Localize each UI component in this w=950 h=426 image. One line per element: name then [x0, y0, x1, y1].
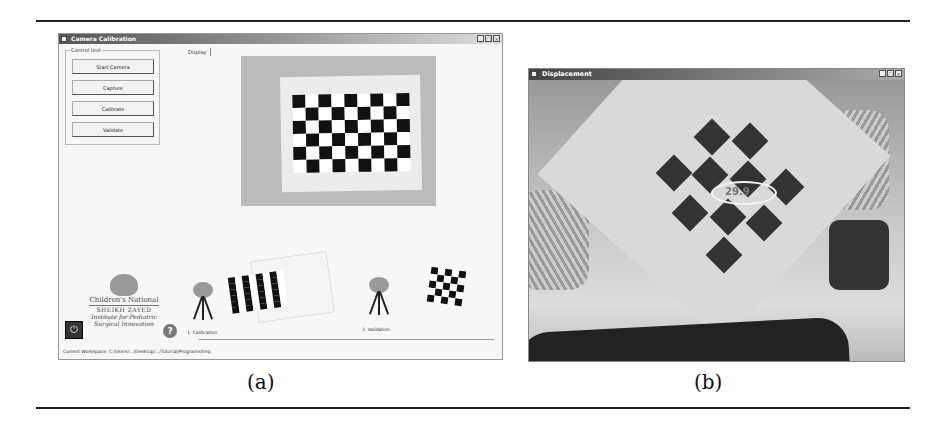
background-object — [829, 220, 889, 290]
start-camera-button[interactable]: Start Camera — [72, 59, 154, 74]
power-icon[interactable]: ⏻ — [65, 321, 83, 339]
close-button[interactable]: × — [895, 70, 902, 77]
displacement-window: Displacement _ □ × 29.9 — [528, 68, 905, 362]
window-title: Camera Calibration — [71, 34, 136, 44]
checkerboard-image — [280, 75, 422, 192]
camera-display — [241, 56, 436, 206]
minimize-button[interactable]: _ — [477, 35, 484, 42]
app-icon — [61, 36, 67, 42]
institution-logo: Children's National SHEIKH ZAYED Institu… — [89, 274, 159, 327]
bear-logo-icon — [110, 274, 138, 296]
validate-button[interactable]: Validate — [72, 122, 154, 137]
divider — [199, 339, 494, 340]
minimize-button[interactable]: _ — [879, 70, 886, 77]
logo-line-3: Institute for Pediatric — [89, 313, 159, 320]
logo-line-4: Surgical Innovation — [89, 320, 159, 327]
control-unit-group: Control Unit Start Camera Capture Calibr… — [65, 50, 160, 145]
caption-b: (b) — [694, 370, 722, 394]
group-label: Control Unit — [70, 47, 102, 53]
maximize-button[interactable]: □ — [887, 70, 894, 77]
logo-line-1: Children's National — [89, 296, 159, 304]
status-bar: Current Workspace: C:/Users/.../Desktop/… — [63, 349, 211, 354]
validation-board-illustration — [427, 267, 467, 307]
logo-line-2: SHEIKH ZAYED — [89, 305, 159, 313]
titlebar[interactable]: Displacement _ □ × — [529, 69, 904, 80]
titlebar[interactable]: Camera Calibration _ □ × — [59, 34, 502, 44]
maximize-button[interactable]: □ — [485, 35, 492, 42]
calibrate-button[interactable]: Calibrate — [72, 101, 154, 116]
caption-a: (a) — [247, 370, 275, 394]
step-validation-label: 2. Validation — [362, 327, 390, 332]
calibration-boards-illustration — [224, 256, 329, 326]
displacement-reading: 29.9 — [725, 186, 750, 197]
step-calibration-label: 1. Calibration — [187, 330, 217, 335]
bottom-rule — [36, 407, 910, 409]
window-title: Displacement — [542, 69, 592, 80]
top-rule — [36, 20, 910, 22]
help-icon[interactable]: ? — [163, 324, 177, 338]
camera-feed: 29.9 — [529, 80, 904, 362]
capture-button[interactable]: Capture — [72, 80, 154, 95]
tab-display[interactable]: Display — [184, 48, 211, 56]
close-button[interactable]: × — [493, 35, 500, 42]
camera-icon — [367, 277, 391, 317]
camera-icon — [191, 282, 215, 322]
keyboard — [529, 316, 850, 362]
app-icon — [531, 71, 537, 77]
camera-calibration-window: Camera Calibration _ □ × Control Unit St… — [58, 33, 503, 360]
